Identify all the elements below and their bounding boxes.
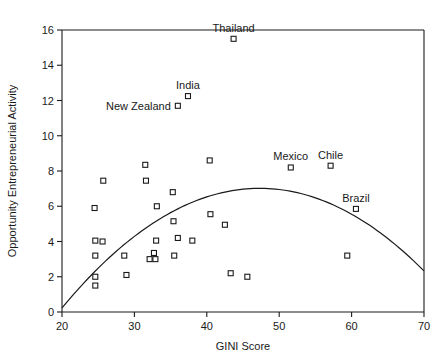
plot-canvas: New ZealandIndiaThailandMexicoChileBrazi… (0, 0, 447, 363)
data-marker (245, 274, 250, 279)
data-markers (92, 36, 358, 288)
x-tick-label: 20 (56, 320, 68, 332)
point-label-chile: Chile (318, 149, 343, 161)
data-marker (172, 253, 177, 258)
data-marker (122, 253, 127, 258)
data-marker (170, 190, 175, 195)
data-marker (93, 238, 98, 243)
regression-curve (62, 188, 424, 308)
y-tick-label: 8 (48, 165, 54, 177)
data-marker (175, 235, 180, 240)
data-marker-brazil (353, 206, 358, 211)
point-label-thailand: Thailand (212, 22, 254, 34)
data-marker (207, 158, 212, 163)
data-marker (222, 222, 227, 227)
data-marker (190, 238, 195, 243)
tick-labels: 0246810121416203040506070 (42, 24, 430, 332)
data-marker (154, 238, 159, 243)
y-tick-label: 14 (42, 59, 54, 71)
point-label-new-zealand: New Zealand (106, 100, 171, 112)
point-label-brazil: Brazil (342, 192, 370, 204)
y-tick-label: 0 (48, 306, 54, 318)
data-marker-new-zealand (175, 103, 180, 108)
point-labels: New ZealandIndiaThailandMexicoChileBrazi… (106, 22, 370, 204)
data-marker-chile (328, 163, 333, 168)
data-marker (93, 253, 98, 258)
data-marker (93, 283, 98, 288)
data-marker (345, 253, 350, 258)
data-marker (92, 206, 97, 211)
x-tick-label: 60 (345, 320, 357, 332)
point-label-india: India (176, 79, 201, 91)
y-tick-label: 6 (48, 200, 54, 212)
data-marker (93, 274, 98, 279)
data-marker (143, 178, 148, 183)
data-marker (100, 239, 105, 244)
x-axis-title: GINI Score (216, 340, 270, 352)
x-tick-label: 50 (273, 320, 285, 332)
x-tick-label: 40 (201, 320, 213, 332)
y-tick-label: 10 (42, 130, 54, 142)
data-marker (228, 271, 233, 276)
y-axis-title: Opportunity Entrepreneurial Activity (6, 84, 18, 257)
data-marker (154, 204, 159, 209)
data-marker (143, 162, 148, 167)
axis-frame (62, 30, 424, 312)
y-tick-label: 16 (42, 24, 54, 36)
x-tick-label: 70 (418, 320, 430, 332)
y-tick-label: 4 (48, 236, 54, 248)
data-marker-mexico (288, 165, 293, 170)
scatter-chart: New ZealandIndiaThailandMexicoChileBrazi… (0, 0, 447, 363)
data-marker-thailand (231, 36, 236, 41)
data-marker-india (185, 94, 190, 99)
data-marker (101, 178, 106, 183)
data-marker (151, 250, 156, 255)
data-marker (208, 212, 213, 217)
y-tick-label: 12 (42, 95, 54, 107)
data-marker (153, 257, 158, 262)
x-tick-label: 30 (128, 320, 140, 332)
point-label-mexico: Mexico (273, 150, 308, 162)
axis-ticks (57, 30, 424, 317)
data-marker (124, 272, 129, 277)
data-marker (171, 219, 176, 224)
data-marker (147, 257, 152, 262)
y-tick-label: 2 (48, 271, 54, 283)
